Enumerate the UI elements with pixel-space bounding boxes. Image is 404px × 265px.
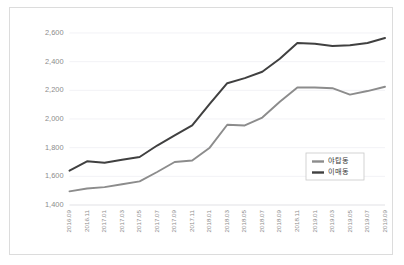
y-axis-tick-label: 2,600: [45, 28, 64, 37]
legend-label-1: 야탑동: [328, 156, 349, 165]
x-axis-tick-label: 2018.05: [240, 209, 247, 232]
x-axis-tick-label: 2019.05: [346, 209, 353, 232]
x-axis-tick-label: 2018.11: [293, 209, 300, 231]
x-axis-tick-label: 2018.03: [223, 209, 230, 232]
chart-legend: 야탑동이매동: [306, 153, 364, 180]
series-line-2: [70, 38, 386, 171]
x-axis-tick-label: 2016.11: [83, 209, 90, 231]
x-axis-tick-label: 2017.03: [118, 209, 125, 232]
x-axis-tick-label: 2019.09: [381, 209, 388, 232]
y-axis-tick-label: 1,400: [45, 200, 64, 209]
x-axis-tick-label: 2017.07: [153, 209, 160, 232]
y-axis-tick-label: 2,200: [45, 85, 64, 94]
x-axis-tick-label: 2018.01: [205, 209, 212, 232]
x-axis-tick-label: 2018.07: [258, 209, 265, 232]
line-chart: 1,4001,6001,8002,0002,2002,4002,600 2016…: [0, 0, 404, 265]
x-axis-tick-label: 2018.09: [275, 209, 282, 232]
x-axis-tick-label: 2019.07: [363, 209, 370, 232]
x-axis-tick-label: 2017.09: [170, 209, 177, 232]
legend-label-2: 이매동: [328, 167, 349, 176]
chart-canvas: 1,4001,6001,8002,0002,2002,4002,600 2016…: [0, 0, 404, 265]
x-axis-tick-label: 2017.05: [135, 209, 142, 232]
y-axis-tick-label: 2,400: [45, 57, 64, 66]
y-axis-tick-labels: 1,4001,6001,8002,0002,2002,4002,600: [45, 28, 64, 209]
x-axis-tick-label: 2017.01: [100, 209, 107, 232]
x-axis-tick-labels: 2016.092016.112017.012017.032017.052017.…: [65, 209, 388, 232]
x-axis-tick-label: 2019.01: [311, 209, 318, 232]
x-axis-tick-label: 2017.11: [188, 209, 195, 231]
y-axis-tick-label: 1,600: [45, 171, 64, 180]
x-axis-tick-label: 2016.09: [65, 209, 72, 232]
x-axis-tick-label: 2019.03: [328, 209, 335, 232]
y-axis-tick-label: 2,000: [45, 114, 64, 123]
y-axis-tick-label: 1,800: [45, 143, 64, 152]
